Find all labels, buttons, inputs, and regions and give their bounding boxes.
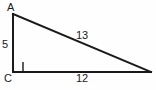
vertex-label-c: C <box>4 73 12 84</box>
side-length-label-horizontal-leg: 12 <box>76 73 88 84</box>
geometry-diagram: A C 5 13 12 <box>0 0 156 90</box>
vertex-label-a: A <box>7 2 14 13</box>
side-length-label-hypotenuse: 13 <box>76 30 88 41</box>
side-length-label-vertical-leg: 5 <box>2 39 8 50</box>
triangle-side-hypotenuse <box>13 14 151 72</box>
right-angle-marker-icon <box>13 62 23 72</box>
